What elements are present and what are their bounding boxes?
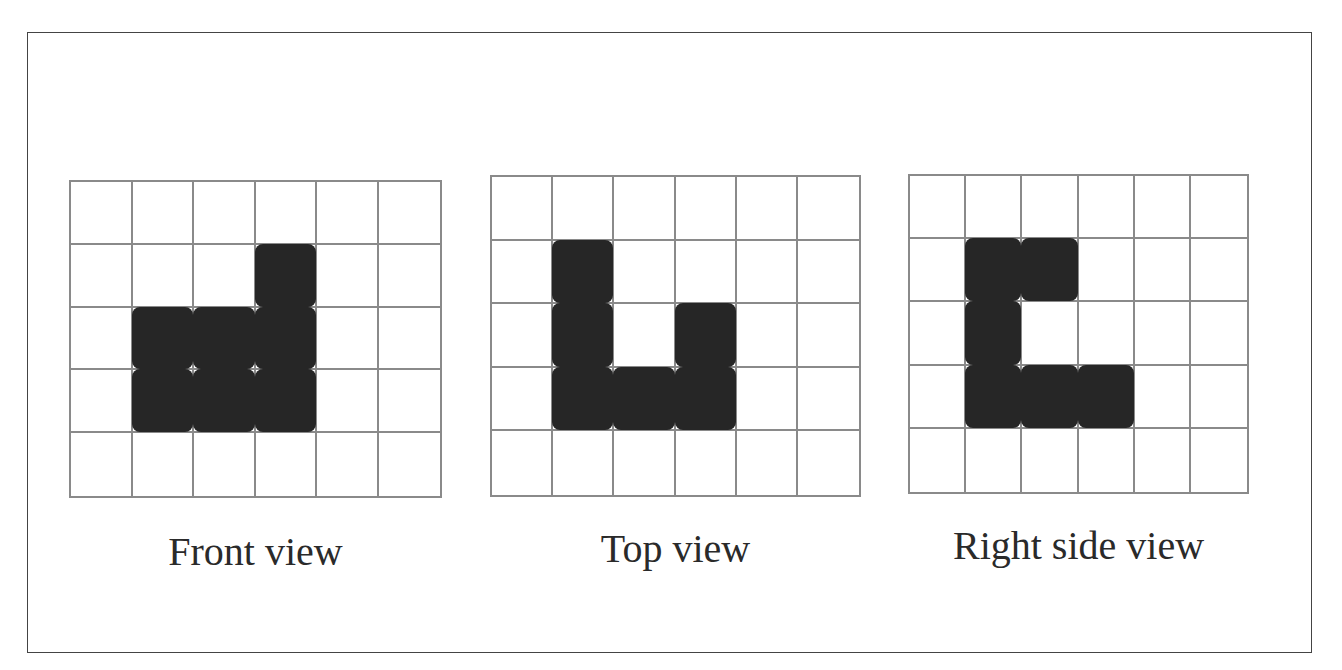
grid-cell [256,433,318,496]
grid-cell [1135,176,1191,239]
grid-cell [966,429,1022,492]
grid-cell [71,370,133,433]
grid-cell [71,308,133,371]
grid-cell [1022,302,1078,365]
grid-cell [737,241,798,305]
front-view-label: Front view [69,528,442,575]
grid-cell [1135,302,1191,365]
grid-cell [1022,176,1078,239]
grid-cell [737,431,798,495]
right-side-view-grid [908,174,1249,494]
grid-cell [798,304,859,368]
grid-cell [798,177,859,241]
grid-cell [256,182,318,245]
filled-cell [256,308,318,371]
grid-cell [1191,366,1247,429]
grid-cell [1135,429,1191,492]
grid-cell [317,245,379,308]
grid-cell [737,304,798,368]
grid-cell [379,308,441,371]
filled-cell [676,304,737,368]
filled-cell [133,370,195,433]
grid-cell [910,429,966,492]
filled-cell [966,302,1022,365]
grid-cell [194,182,256,245]
grid-cell [317,433,379,496]
grid-cell [317,370,379,433]
grid-cell [737,177,798,241]
filled-cell [1022,239,1078,302]
grid-cell [71,245,133,308]
filled-cell [676,368,737,432]
grid-cell [676,431,737,495]
top-view-label: Top view [490,525,861,572]
filled-cell [1079,366,1135,429]
grid-cell [492,368,553,432]
grid-cell [614,177,675,241]
grid-cell [492,241,553,305]
grid-cell [1191,302,1247,365]
grid-cell [1191,239,1247,302]
grid-cell [194,433,256,496]
grid-cell [194,245,256,308]
grid-cell [1022,429,1078,492]
top-view-grid [490,175,861,497]
front-view-grid [69,180,442,498]
grid-cell [1079,239,1135,302]
filled-cell [966,239,1022,302]
grid-cell [133,433,195,496]
grid-cell [1079,302,1135,365]
grid-cell [737,368,798,432]
filled-cell [553,241,614,305]
grid-cell [910,302,966,365]
grid-cell [71,433,133,496]
grid-cell [553,431,614,495]
filled-cell [553,304,614,368]
filled-cell [194,308,256,371]
grid-cell [492,431,553,495]
filled-cell [256,370,318,433]
grid-cell [553,177,614,241]
filled-cell [1022,366,1078,429]
grid-cell [133,245,195,308]
grid-cell [492,304,553,368]
grid-cell [379,182,441,245]
grid-cell [379,370,441,433]
grid-cell [798,431,859,495]
grid-cell [910,176,966,239]
filled-cell [553,368,614,432]
filled-cell [256,245,318,308]
grid-cell [71,182,133,245]
grid-cell [910,239,966,302]
filled-cell [614,368,675,432]
grid-cell [1135,239,1191,302]
grid-cell [379,245,441,308]
grid-cell [379,433,441,496]
grid-cell [1135,366,1191,429]
filled-cell [194,370,256,433]
grid-cell [910,366,966,429]
grid-cell [966,176,1022,239]
grid-cell [614,431,675,495]
grid-cell [676,241,737,305]
grid-cell [1079,429,1135,492]
grid-cell [1191,429,1247,492]
filled-cell [133,308,195,371]
grid-cell [492,177,553,241]
grid-cell [1191,176,1247,239]
grid-cell [614,304,675,368]
grid-cell [614,241,675,305]
grid-cell [798,241,859,305]
grid-cell [317,308,379,371]
grid-cell [676,177,737,241]
grid-cell [317,182,379,245]
right-side-view-label: Right side view [908,522,1249,569]
grid-cell [1079,176,1135,239]
filled-cell [966,366,1022,429]
grid-cell [133,182,195,245]
grid-cell [798,368,859,432]
